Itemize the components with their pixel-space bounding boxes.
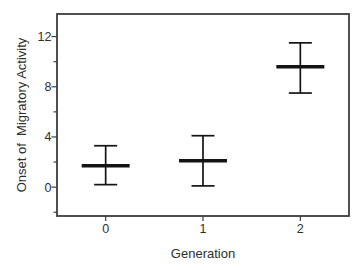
errorbar-generation-0 bbox=[82, 146, 130, 185]
y-tick-label-12: 12 bbox=[38, 30, 52, 44]
x-tick-label-0: 0 bbox=[102, 222, 109, 236]
y-axis-label: Onset of Migratory Activity bbox=[14, 38, 29, 193]
x-tick-label-2: 2 bbox=[297, 222, 304, 236]
migration-onset-figure: 04812012 Onset of Migratory Activity Gen… bbox=[0, 0, 364, 270]
x-axis-label: Generation bbox=[57, 246, 349, 261]
errorbar-plot: 04812012 bbox=[0, 0, 364, 270]
errorbar-generation-1 bbox=[179, 136, 227, 186]
x-tick-label-1: 1 bbox=[200, 222, 207, 236]
y-tick-label-8: 8 bbox=[45, 80, 52, 94]
errorbar-generation-2 bbox=[276, 43, 324, 93]
y-tick-label-4: 4 bbox=[45, 130, 52, 144]
y-tick-label-0: 0 bbox=[45, 181, 52, 195]
